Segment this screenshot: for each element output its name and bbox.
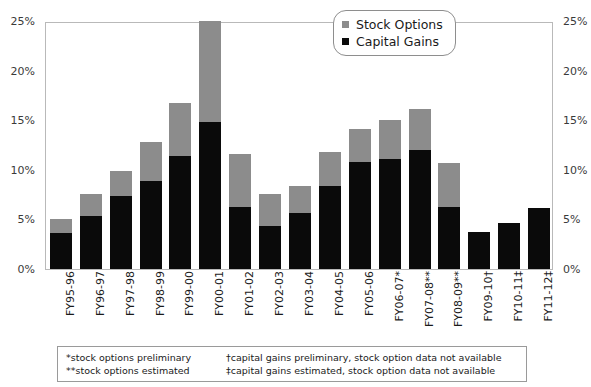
x-axis-tick-label: FY04-05: [334, 271, 345, 341]
y-axis-tick-right: 0%: [563, 264, 580, 275]
y-axis-left: 0%5%10%15%20%25%: [0, 22, 40, 270]
chart-container: 0%5%10%15%20%25% 0%5%10%15%20%25% FY95-9…: [0, 0, 591, 387]
legend-label-stock-options: Stock Options: [356, 18, 443, 31]
legend-item-stock-options[interactable]: Stock Options: [342, 16, 443, 33]
plot-frame: [45, 22, 553, 270]
plot-area: [46, 23, 552, 269]
x-axis-tick-label: FY09-10†: [483, 271, 494, 341]
chart-legend: Stock Options Capital Gains: [333, 10, 456, 56]
x-axis-tick-label: FY01-02: [244, 271, 255, 341]
bar-segment-stock-options: [409, 109, 431, 150]
bar-segment-capital-gains: [199, 122, 221, 269]
footnote-row: **stock options estimated ‡capital gains…: [66, 364, 520, 377]
bar-segment-capital-gains: [319, 186, 341, 269]
bar-segment-stock-options: [229, 154, 251, 207]
y-axis-tick-right: 20%: [563, 66, 587, 77]
bar-segment-capital-gains: [438, 207, 460, 269]
x-axis-tick-label: FY98-99: [155, 271, 166, 341]
bar-segment-capital-gains: [229, 207, 251, 269]
bar-segment-stock-options: [319, 152, 341, 186]
footnote-stock-options-preliminary: *stock options preliminary: [66, 351, 226, 364]
footnote-capital-gains-preliminary: †capital gains preliminary, stock option…: [226, 351, 501, 364]
x-axis-tick-label: FY03-04: [304, 271, 315, 341]
x-axis-tick-label: FY96-97: [95, 271, 106, 341]
bar-segment-stock-options: [110, 171, 132, 196]
x-axis-tick-label: FY95-96: [65, 271, 76, 341]
bar-segment-stock-options: [140, 142, 162, 181]
bar-segment-stock-options: [199, 21, 221, 122]
footnote-stock-options-estimated: **stock options estimated: [66, 364, 226, 377]
legend-swatch-capital-gains: [342, 38, 349, 45]
bar-segment-stock-options: [50, 219, 72, 233]
bar-segment-capital-gains: [468, 232, 490, 269]
bar-segment-capital-gains: [110, 196, 132, 269]
bar-segment-stock-options: [259, 194, 281, 227]
bar-segment-capital-gains: [528, 208, 550, 270]
footnote-box: *stock options preliminary †capital gain…: [57, 346, 527, 382]
bar-segment-capital-gains: [379, 159, 401, 269]
bar-segment-capital-gains: [498, 223, 520, 269]
x-axis-tick-label: FY02-03: [274, 271, 285, 341]
legend-swatch-stock-options: [342, 21, 349, 28]
x-axis-tick-label: FY06-07*: [394, 271, 405, 341]
x-axis-tick-label: FY00-01: [214, 271, 225, 341]
y-axis-tick-left: 0%: [18, 264, 35, 275]
bar-segment-capital-gains: [50, 233, 72, 269]
x-axis-tick-label: FY99-00: [184, 271, 195, 341]
y-axis-tick-left: 5%: [18, 214, 35, 225]
bar-segment-capital-gains: [80, 216, 102, 269]
bar-segment-stock-options: [289, 186, 311, 214]
y-axis-tick-right: 5%: [563, 214, 580, 225]
footnote-capital-gains-estimated: ‡capital gains estimated, stock option d…: [226, 364, 495, 377]
legend-item-capital-gains[interactable]: Capital Gains: [342, 33, 443, 50]
y-axis-tick-left: 10%: [11, 165, 35, 176]
bar-segment-stock-options: [438, 163, 460, 207]
bar-segment-capital-gains: [169, 156, 191, 269]
y-axis-tick-right: 10%: [563, 165, 587, 176]
bar-segment-capital-gains: [409, 150, 431, 269]
bar-segment-stock-options: [80, 194, 102, 217]
y-axis-tick-left: 25%: [11, 16, 35, 27]
bar-segment-stock-options: [379, 120, 401, 159]
x-axis-labels: FY95-96FY96-97FY97-98FY98-99FY99-00FY00-…: [45, 271, 553, 341]
y-axis-tick-left: 20%: [11, 66, 35, 77]
x-axis-tick-label: FY05-06: [364, 271, 375, 341]
footnote-row: *stock options preliminary †capital gain…: [66, 351, 520, 364]
legend-label-capital-gains: Capital Gains: [356, 35, 439, 48]
bar-segment-capital-gains: [349, 162, 371, 269]
x-axis-tick-label: FY07-08**: [424, 271, 435, 341]
x-axis-tick-label: FY08-09**: [453, 271, 464, 341]
y-axis-right: 0%5%10%15%20%25%: [558, 22, 591, 270]
bar-segment-stock-options: [169, 103, 191, 156]
bar-segment-capital-gains: [259, 226, 281, 269]
bar-segment-capital-gains: [140, 181, 162, 269]
y-axis-tick-left: 15%: [11, 115, 35, 126]
x-axis-tick-label: FY11-12‡: [543, 271, 554, 341]
x-axis-tick-label: FY10-11‡: [513, 271, 524, 341]
x-axis-tick-label: FY97-98: [125, 271, 136, 341]
y-axis-tick-right: 15%: [563, 115, 587, 126]
bar-segment-stock-options: [349, 129, 371, 162]
bar-segment-capital-gains: [289, 213, 311, 269]
y-axis-tick-right: 25%: [563, 16, 587, 27]
